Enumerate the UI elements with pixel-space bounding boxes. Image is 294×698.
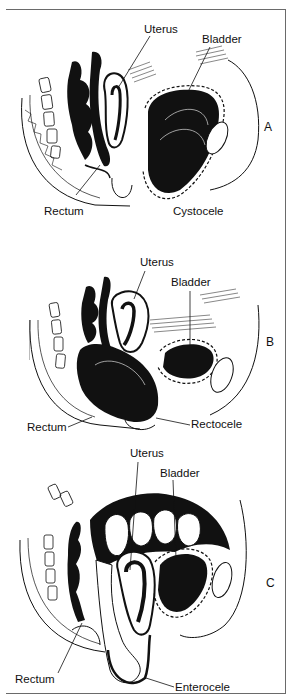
panel-letter-b: B xyxy=(266,335,274,349)
label-uterus-a: Uterus xyxy=(144,23,178,36)
panel-letter-a: A xyxy=(264,120,272,134)
label-bladder-c: Bladder xyxy=(160,467,200,480)
panel-c-illustration xyxy=(0,440,294,698)
label-uterus-c: Uterus xyxy=(130,447,164,460)
panel-b: Uterus Bladder Rectum Rectocele B xyxy=(0,225,294,450)
label-bladder-a: Bladder xyxy=(202,33,242,46)
label-bladder-b: Bladder xyxy=(171,276,211,289)
panel-a: Uterus Bladder Rectum Cystocele A xyxy=(0,0,294,230)
label-rectum-b: Rectum xyxy=(27,421,67,434)
label-rectum-a: Rectum xyxy=(44,205,84,218)
label-rectum-c: Rectum xyxy=(15,673,55,686)
panel-letter-c: C xyxy=(266,576,275,590)
label-enterocele: Enterocele xyxy=(175,681,230,694)
panel-c: Uterus Bladder Rectum Enterocele C xyxy=(0,440,294,698)
label-cystocele: Cystocele xyxy=(173,205,224,218)
label-rectocele: Rectocele xyxy=(191,418,242,431)
label-uterus-b: Uterus xyxy=(140,256,174,269)
